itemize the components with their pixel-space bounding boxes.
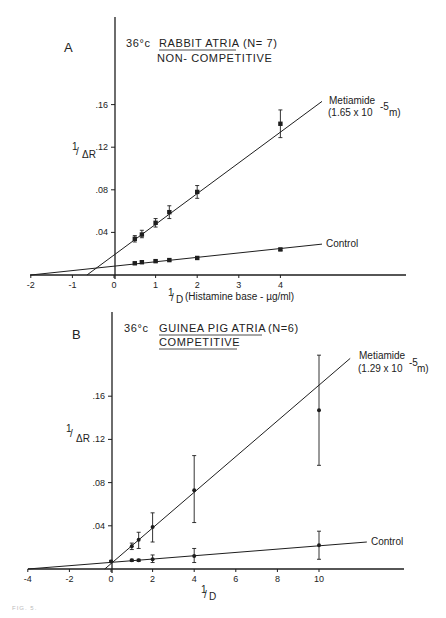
panel-a-title-n: (N= 7) <box>243 37 277 49</box>
panel-letter-b: B <box>72 327 81 342</box>
panel-b-xlabel-slash: / <box>204 589 207 600</box>
panel-a-metiamide-unit: m) <box>389 107 401 118</box>
panel-a-title-species: RABBIT ATRIA <box>159 37 240 49</box>
panel-b-control-label: Control <box>371 536 403 547</box>
panel-b-subtitle: COMPETITIVE <box>159 336 240 348</box>
panel-a-subtitle: NON- COMPETITIVE <box>157 52 272 64</box>
panel-a-xlabel-slash: / <box>171 292 174 303</box>
panel-b-ylabel-den: ΔR <box>76 433 90 444</box>
panel-a-metiamide-label: Metiamide <box>329 95 376 106</box>
panel-b-title-species: GUINEA PIG ATRIA <box>159 322 266 334</box>
panel-b-xlabel-den: D <box>209 591 216 602</box>
panel-a-xlabel-den: D <box>176 294 183 305</box>
panel-b-metiamide-label: Metiamide <box>359 350 406 361</box>
panel-a-title-prefix: 36°c <box>126 37 151 49</box>
panel-b-metiamide-unit: m) <box>417 363 429 374</box>
panel-b-title-n: (N=6) <box>268 322 299 334</box>
panel-a-control-label: Control <box>326 238 358 249</box>
figure-text: A 36°c RABBIT ATRIA (N= 7) NON- COMPETIT… <box>0 0 446 618</box>
panel-a-ylabel-slash: / <box>76 146 79 157</box>
panel-a-metiamide-exp: -5 <box>380 101 389 112</box>
panel-letter-a: A <box>64 40 73 55</box>
panel-b-metiamide-conc: (1.29 x 10 <box>358 363 403 374</box>
panel-a-xlabel-unit: (Histamine base - µg/ml) <box>185 291 294 302</box>
panel-a-metiamide-conc: (1.65 x 10 <box>328 107 373 118</box>
figure-caption: FIG. 5. <box>12 605 37 611</box>
panel-b-ylabel-slash: / <box>70 428 73 439</box>
panel-a-ylabel-den: ΔR <box>82 149 96 160</box>
panel-b-title-prefix: 36°c <box>124 322 149 334</box>
